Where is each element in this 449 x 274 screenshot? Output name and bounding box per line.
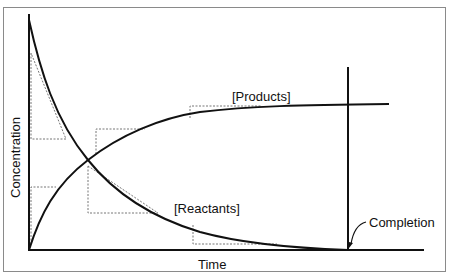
x-axis-label: Time bbox=[198, 257, 226, 272]
y-axis-label: Concentration bbox=[8, 117, 23, 198]
completion-arrowhead-icon bbox=[349, 242, 353, 248]
products-label: [Products] bbox=[232, 89, 291, 104]
products-curve bbox=[29, 104, 389, 250]
reactants-label: [Reactants] bbox=[174, 201, 240, 216]
reaction-progress-diagram: [Products] [Reactants] Completion Time C… bbox=[0, 0, 449, 274]
completion-arrow-icon bbox=[351, 222, 366, 244]
completion-label: Completion bbox=[369, 215, 435, 230]
reactants-rate-triangles bbox=[31, 53, 277, 244]
